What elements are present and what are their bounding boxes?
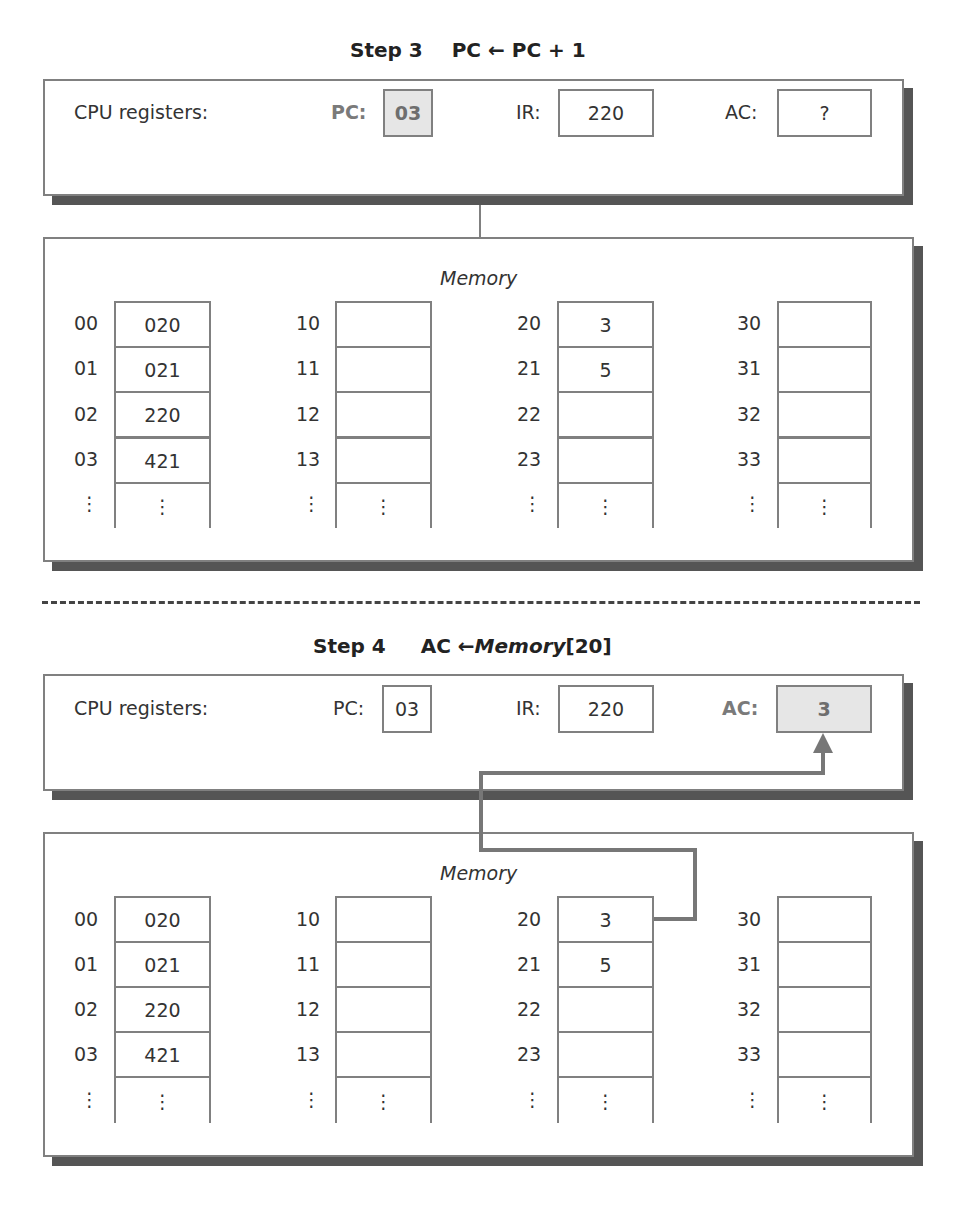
data-flow-arrow-icon — [0, 0, 959, 1208]
